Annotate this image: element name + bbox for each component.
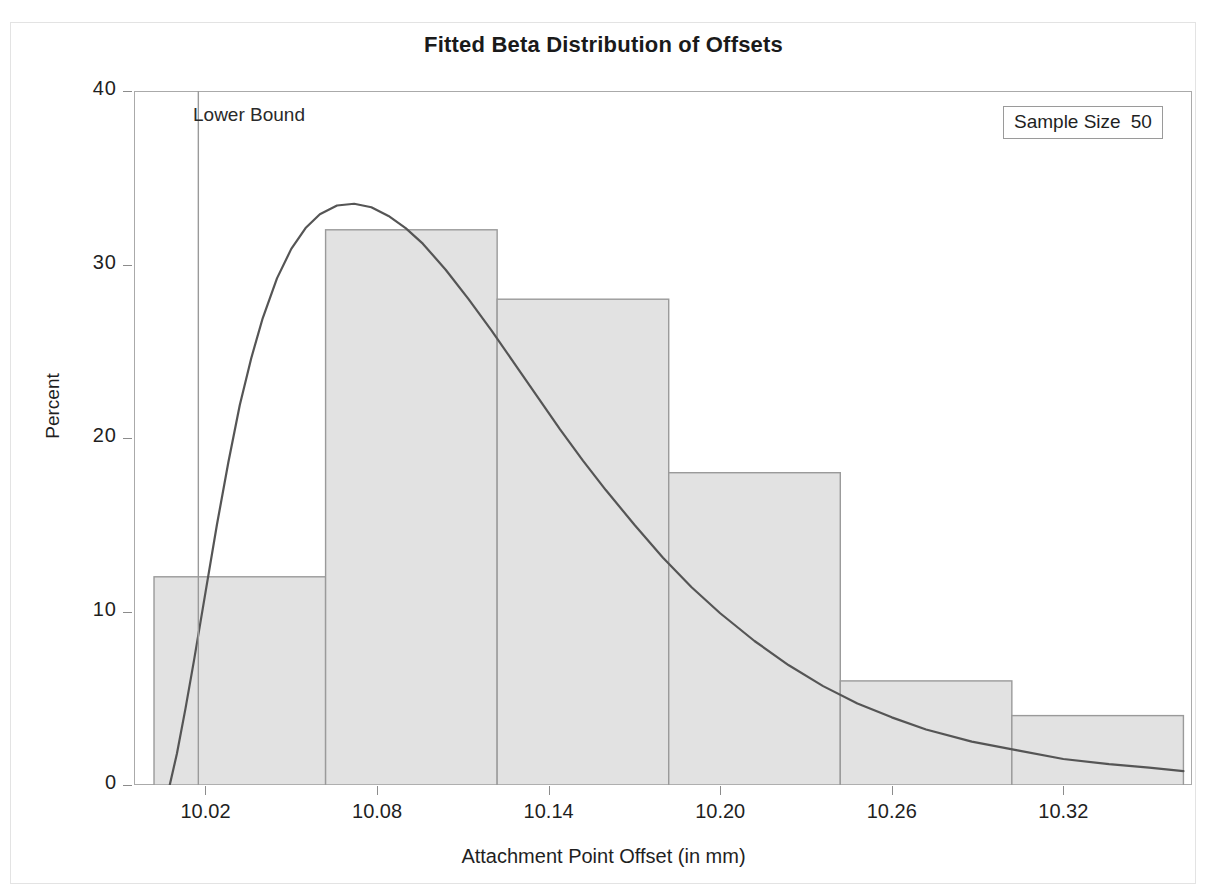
x-tick-label: 10.02 [145, 800, 265, 823]
histogram-bar [840, 681, 1012, 785]
y-tick-label: 0 [55, 771, 117, 794]
x-tick-mark [205, 786, 206, 795]
y-tick-label: 20 [55, 424, 117, 447]
y-axis-label: Percent [42, 346, 64, 466]
histogram-bar [154, 577, 326, 785]
x-axis-label: Attachment Point Offset (in mm) [0, 845, 1207, 868]
x-tick-label: 10.26 [832, 800, 952, 823]
histogram-bar [326, 230, 498, 785]
y-tick-mark [123, 265, 132, 266]
legend-label: Sample Size [1014, 111, 1121, 132]
histogram-bars [154, 230, 1183, 785]
x-tick-mark [1063, 786, 1064, 795]
legend-value: 50 [1131, 111, 1152, 132]
histogram-bar [1012, 716, 1184, 785]
chart-title: Fitted Beta Distribution of Offsets [0, 32, 1207, 58]
x-tick-mark [720, 786, 721, 795]
y-tick-mark [123, 785, 132, 786]
x-tick-mark [549, 786, 550, 795]
sample-size-legend: Sample Size50 [1003, 106, 1163, 139]
x-tick-mark [892, 786, 893, 795]
y-tick-label: 40 [55, 77, 117, 100]
x-tick-label: 10.14 [489, 800, 609, 823]
lower-bound-label: Lower Bound [193, 104, 305, 126]
histogram-bar [497, 299, 669, 785]
x-tick-label: 10.20 [660, 800, 780, 823]
y-tick-mark [123, 91, 132, 92]
histogram-bar [669, 473, 841, 785]
plot-canvas [134, 91, 1192, 785]
y-tick-label: 10 [55, 598, 117, 621]
x-tick-label: 10.08 [317, 800, 437, 823]
x-tick-label: 10.32 [1003, 800, 1123, 823]
x-tick-mark [377, 786, 378, 795]
chart-page: Fitted Beta Distribution of Offsets Perc… [0, 0, 1207, 890]
y-tick-mark [123, 612, 132, 613]
y-tick-label: 30 [55, 251, 117, 274]
y-tick-mark [123, 438, 132, 439]
